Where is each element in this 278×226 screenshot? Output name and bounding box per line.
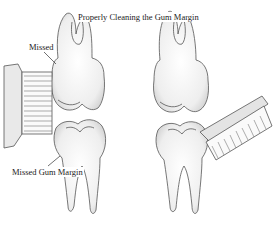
left-toothbrush-icon (4, 64, 52, 148)
missed-gum-margin-label: Missed Gum Margin (11, 167, 84, 177)
missed-label: Missed (28, 42, 55, 52)
dental-illustration (0, 0, 278, 226)
missed-gum-leader-line (48, 156, 60, 166)
left-upper-tooth (51, 13, 104, 110)
right-upper-tooth (153, 11, 208, 112)
diagram-title: Properly Cleaning the Gum Margin (77, 12, 200, 22)
right-lower-tooth (156, 122, 208, 214)
missed-leader-line (44, 52, 56, 64)
right-toothbrush-icon (200, 96, 272, 160)
